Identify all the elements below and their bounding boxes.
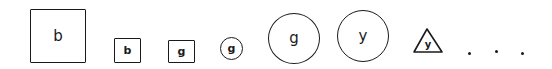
small-square-b: b	[114, 38, 141, 63]
ellipsis-dot	[468, 52, 471, 55]
large-circle-y: y	[337, 10, 389, 62]
small-circle-g: g	[220, 37, 243, 60]
large-circle-g-label: g	[289, 31, 299, 46]
small-square-b-label: b	[124, 45, 132, 56]
small-triangle-y: y	[412, 27, 444, 54]
large-square: b	[30, 9, 86, 63]
small-triangle-y-label: y	[425, 39, 432, 50]
small-square-g: g	[168, 40, 195, 63]
large-circle-y-label: y	[359, 29, 368, 44]
ellipsis-dot	[495, 50, 498, 53]
large-square-label: b	[53, 29, 63, 44]
ellipsis-dot	[521, 52, 524, 55]
small-square-g-label: g	[178, 46, 186, 57]
small-circle-g-label: g	[228, 43, 236, 54]
large-circle-g: g	[268, 13, 320, 64]
